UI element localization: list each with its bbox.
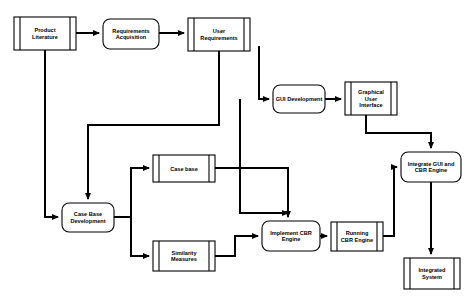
node-user-requirements[interactable]: UserRequirements [188, 18, 250, 51]
flowchart-diagram: ProductLiteratureRequirementsAcquisition… [0, 0, 474, 299]
node-label-product-literature: ProductLiterature [32, 27, 58, 40]
edge-case-base-development-to-case-base [114, 168, 149, 217]
node-label-gui-development: GUI Development [276, 96, 323, 102]
node-integrated-system[interactable]: IntegratedSystem [404, 258, 460, 289]
edge-graphical-user-interface-to-integrate-gui-and-cbr-engine [366, 115, 431, 148]
edge-case-base-development-to-similarity-measures [114, 217, 149, 256]
node-running-cbr-engine[interactable]: RunningCBR Engine [331, 222, 383, 251]
node-label-case-base: Case base [170, 166, 198, 172]
node-gui-development[interactable]: GUI Development [273, 85, 325, 113]
edge-case-base-to-implement-cbr-engine [215, 168, 288, 217]
node-similarity-measures[interactable]: SimilarityMeasures [153, 241, 215, 271]
node-label-similarity-measures: SimilarityMeasures [171, 250, 197, 263]
node-product-literature[interactable]: ProductLiterature [14, 17, 76, 50]
nodes-layer: ProductLiteratureRequirementsAcquisition… [14, 17, 461, 289]
node-label-running-cbr-engine: RunningCBR Engine [341, 230, 373, 243]
node-integrate-gui-and-cbr-engine[interactable]: Integrate GUI andCBR Engine [401, 152, 461, 182]
edge-product-literature-to-case-base-development [45, 50, 58, 217]
edge-similarity-measures-to-implement-cbr-engine [215, 236, 258, 256]
edge-user-requirements-to-gui-development [259, 46, 269, 99]
node-case-base-development[interactable]: Case BaseDevelopment [62, 203, 114, 232]
node-label-case-base-development: Case BaseDevelopment [70, 211, 105, 224]
edge-running-cbr-engine-to-integrate-gui-and-cbr-engine [383, 167, 397, 236]
node-requirements-acquisition[interactable]: RequirementsAcquisition [103, 19, 159, 49]
diagram-canvas: ProductLiteratureRequirementsAcquisition… [0, 0, 474, 299]
node-label-requirements-acquisition: RequirementsAcquisition [112, 28, 149, 41]
edge-gui-development-branch-to-implement-cbr-engine [240, 99, 288, 213]
node-case-base[interactable]: Case base [153, 155, 215, 182]
node-graphical-user-interface[interactable]: GraphicalUserInterface [345, 82, 397, 115]
node-implement-cbr-engine[interactable]: Implement CBREngine [262, 221, 320, 251]
